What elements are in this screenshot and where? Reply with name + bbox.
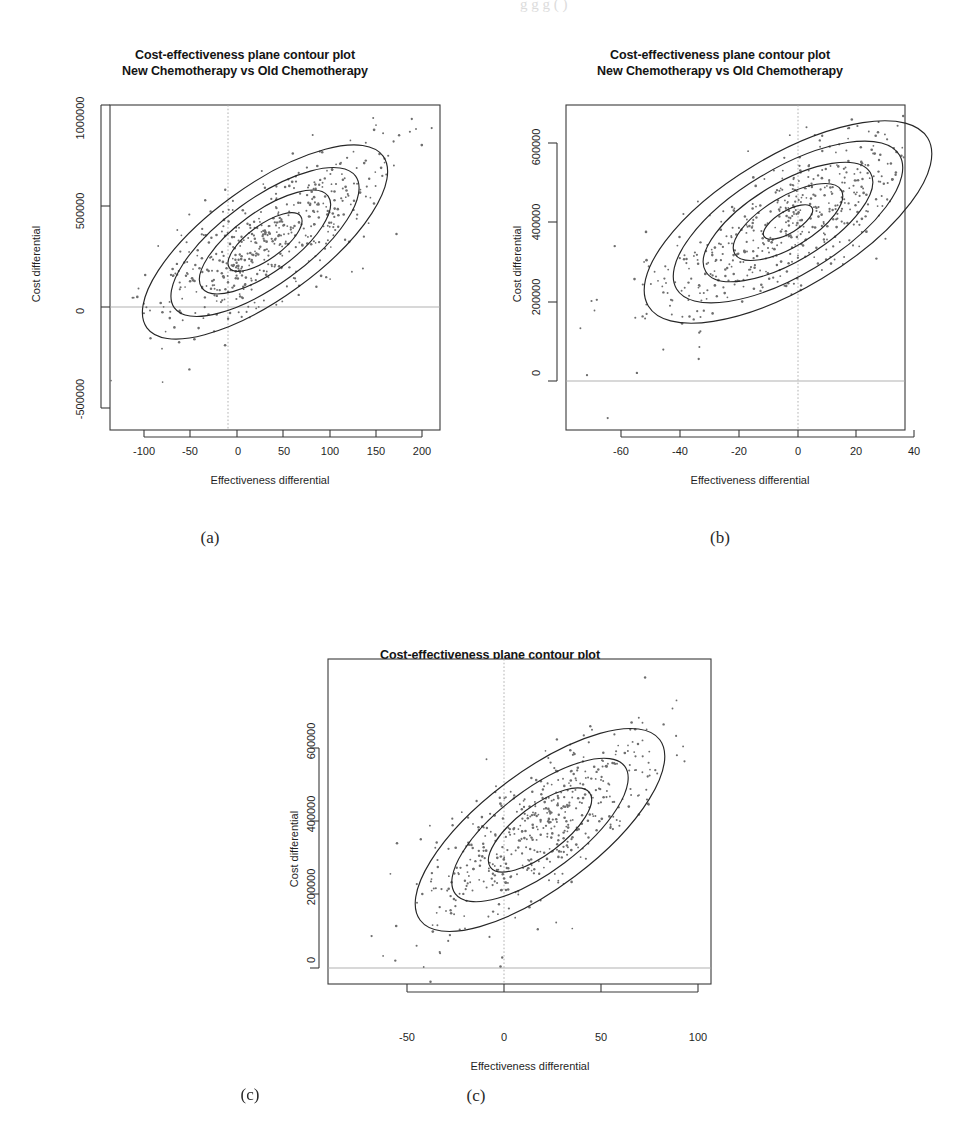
panel-a-plot bbox=[0, 0, 470, 470]
figure-panel-b: Cost-effectiveness plane contour plot Ne… bbox=[470, 0, 953, 580]
panel-b-caption: (b) bbox=[660, 528, 780, 548]
panel-a-xlabel: Effectiveness differential bbox=[140, 474, 400, 486]
panel-c-xlabel: Effectiveness differential bbox=[400, 1060, 660, 1072]
panel-b-xlabel: Effectiveness differential bbox=[620, 474, 880, 486]
figure-panel-c: Cost-effectiveness plane contour plot Ne… bbox=[240, 590, 720, 1126]
panel-c-plotbox bbox=[328, 659, 711, 984]
panel-c-plot bbox=[240, 590, 720, 1056]
figure-caption-c: (c) bbox=[416, 1086, 536, 1106]
panel-b-plot bbox=[470, 0, 953, 470]
panel-c-caption: (c) bbox=[190, 1085, 310, 1105]
figure-panel-a: Cost-effectiveness plane contour plot Ne… bbox=[0, 0, 470, 580]
panel-a-caption: (a) bbox=[150, 528, 270, 548]
